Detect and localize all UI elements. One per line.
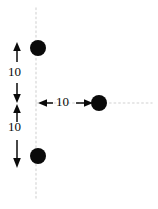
bottom-up-arrow-head	[13, 104, 21, 113]
bottom-charge-dot	[30, 148, 46, 164]
right-charge-dot	[91, 95, 107, 111]
top-charge-dot	[30, 40, 46, 56]
bottom-down-arrow-head	[13, 158, 21, 168]
top-down-arrow-head	[13, 94, 21, 103]
physics-spacing-diagram: 10 10 10	[0, 0, 158, 209]
bottom-gap-label: 10	[8, 120, 21, 133]
top-up-arrow-head	[13, 42, 21, 51]
diagram-canvas	[0, 0, 158, 209]
left-arrow-head	[38, 99, 47, 107]
horizontal-gap-label: 10	[56, 95, 69, 108]
top-gap-label: 10	[8, 65, 21, 78]
